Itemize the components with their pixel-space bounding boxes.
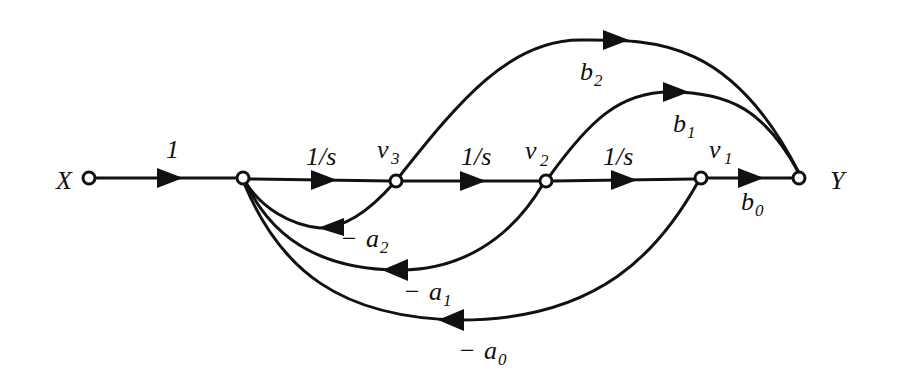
label-a1: − a 1 [403, 277, 452, 310]
label-b0: b 0 [741, 187, 764, 220]
svg-text:0: 0 [498, 350, 507, 369]
label-b2: b 2 [580, 57, 603, 90]
arrow-icon [611, 170, 637, 190]
svg-text:v: v [709, 135, 721, 164]
label-v1: v 1 [709, 135, 733, 168]
arrow-icon [663, 82, 689, 102]
gain-1-over-s-a: 1/s [306, 142, 336, 171]
arrow-icon [460, 171, 486, 191]
svg-text:v: v [377, 135, 389, 164]
svg-text:−: − [403, 277, 421, 306]
edge-a2 [246, 183, 393, 228]
node-v2 [540, 175, 552, 187]
svg-text:2: 2 [540, 151, 549, 170]
arrow-icon [603, 30, 629, 50]
signal-flow-graph: X Y v 3 v 2 v 1 1 1/s 1/s 1/s b 2 b 1 b … [0, 0, 899, 390]
svg-text:a: a [366, 224, 379, 253]
arrow-icon [311, 170, 337, 190]
label-b1: b 1 [673, 109, 696, 142]
node-y [793, 172, 805, 184]
node-v3 [390, 175, 402, 187]
svg-text:−: − [458, 336, 476, 365]
label-y: Y [830, 166, 847, 195]
svg-text:a: a [429, 277, 442, 306]
svg-text:b: b [673, 109, 686, 138]
arrow-icon [157, 168, 183, 188]
label-v3: v 3 [377, 135, 400, 168]
label-x: X [55, 166, 73, 195]
svg-text:b: b [741, 187, 754, 216]
svg-text:0: 0 [755, 201, 764, 220]
label-v2: v 2 [525, 136, 549, 170]
svg-text:1: 1 [724, 149, 733, 168]
node-v1 [695, 172, 707, 184]
svg-text:2: 2 [594, 71, 603, 90]
gain-1: 1 [166, 135, 179, 164]
svg-text:a: a [484, 336, 497, 365]
svg-text:b: b [580, 57, 593, 86]
label-a2: − a 2 [340, 224, 389, 257]
node-sum [237, 172, 249, 184]
arrow-icon [438, 309, 464, 331]
node-x [83, 172, 95, 184]
svg-text:1: 1 [443, 291, 452, 310]
gain-1-over-s-b: 1/s [461, 142, 491, 171]
label-a0: − a 0 [458, 336, 507, 369]
svg-text:1: 1 [687, 123, 696, 142]
edge-b2 [399, 40, 800, 177]
svg-text:2: 2 [380, 238, 389, 257]
gain-1-over-s-c: 1/s [603, 142, 633, 171]
arrow-icon [738, 168, 764, 188]
svg-text:−: − [340, 224, 358, 253]
svg-text:3: 3 [390, 149, 400, 168]
svg-text:v: v [525, 136, 537, 165]
